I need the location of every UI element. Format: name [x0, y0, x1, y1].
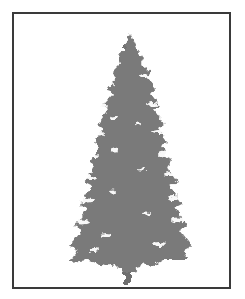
picture-frame	[12, 12, 231, 289]
tree-illustration	[14, 14, 229, 287]
tree-icon	[14, 14, 229, 287]
